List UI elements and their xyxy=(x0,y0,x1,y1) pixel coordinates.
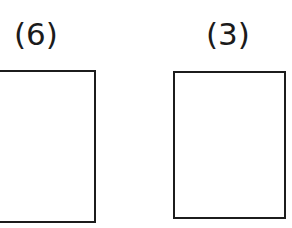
panel-label-right: (3) xyxy=(206,19,250,50)
panel-frame-right xyxy=(173,71,286,219)
panel-label-left: (6) xyxy=(14,19,58,50)
panel-frame-left xyxy=(0,70,96,223)
figure-canvas: (6) (3) xyxy=(0,0,292,228)
